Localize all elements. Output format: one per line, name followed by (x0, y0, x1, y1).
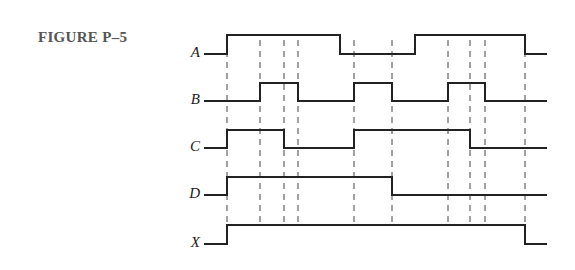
waveform-d (204, 177, 547, 195)
waveform-b (204, 83, 547, 101)
dashed-guide-lines (227, 40, 525, 225)
timing-diagram (0, 0, 575, 270)
signal-waveforms (204, 35, 547, 244)
waveform-c (204, 130, 547, 148)
waveform-x (204, 225, 547, 244)
waveform-a (204, 35, 547, 54)
